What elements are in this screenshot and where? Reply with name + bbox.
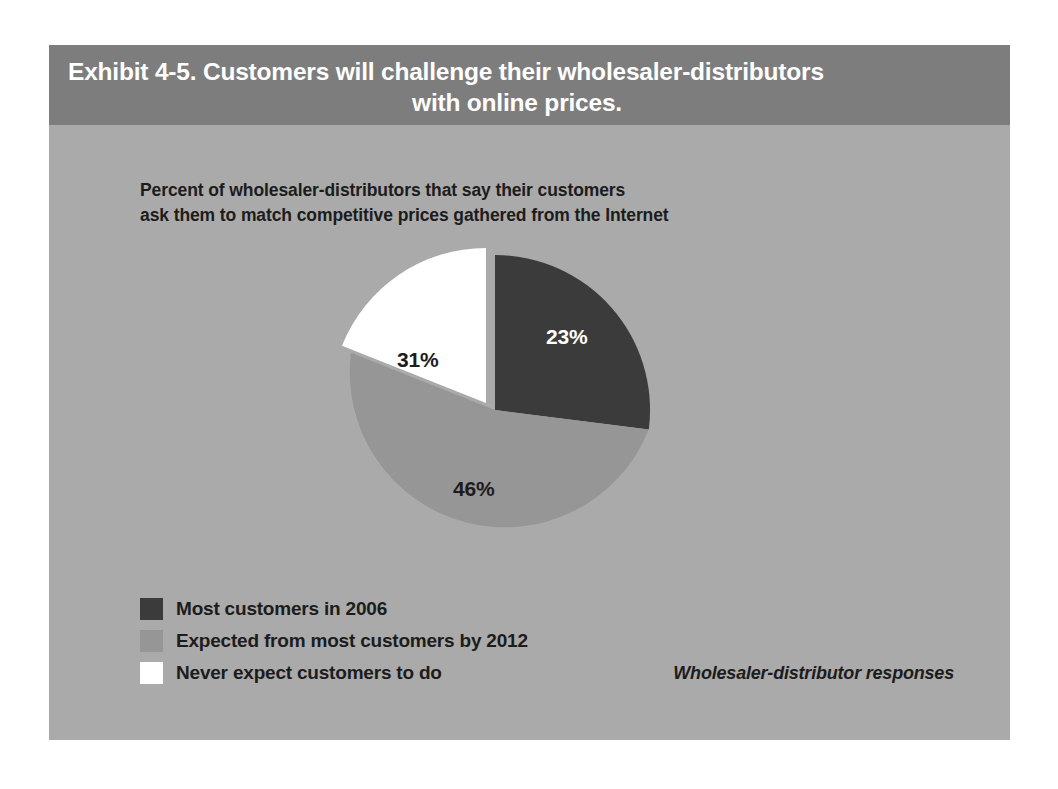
chart-source-note: Wholesaler-distributor responses (673, 658, 954, 688)
legend-label-never-expect: Never expect customers to do (176, 658, 442, 688)
pie-label-most-customers-2006: 23% (546, 325, 587, 349)
legend-label-most-customers-2006: Most customers in 2006 (176, 594, 387, 624)
legend-label-expected-by-2012: Expected from most customers by 2012 (176, 626, 528, 656)
exhibit-panel: Exhibit 4-5. Customers will challenge th… (49, 45, 1010, 740)
pie-label-never-expect: 31% (397, 348, 438, 372)
legend-swatch-icon-dark (140, 598, 163, 620)
legend-swatch-icon-gray (140, 630, 163, 652)
chart-legend: Most customers in 2006 Expected from mos… (140, 594, 1010, 690)
legend-swatch-icon-white (140, 662, 163, 684)
legend-item-expected-by-2012[interactable]: Expected from most customers by 2012 (140, 626, 1010, 658)
pie-label-expected-by-2012: 46% (453, 477, 494, 501)
legend-item-most-customers-2006[interactable]: Most customers in 2006 (140, 594, 1010, 626)
exhibit-figure: Exhibit 4-5. Customers will challenge th… (0, 0, 1058, 789)
